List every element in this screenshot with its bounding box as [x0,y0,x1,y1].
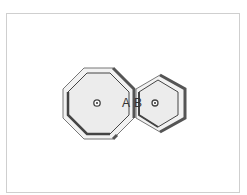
label-a: A [122,97,130,109]
hexagon-shape [136,75,185,132]
center-marker-a-icon [94,100,100,106]
center-marker-b-icon [152,100,158,106]
label-b: B [134,97,142,109]
